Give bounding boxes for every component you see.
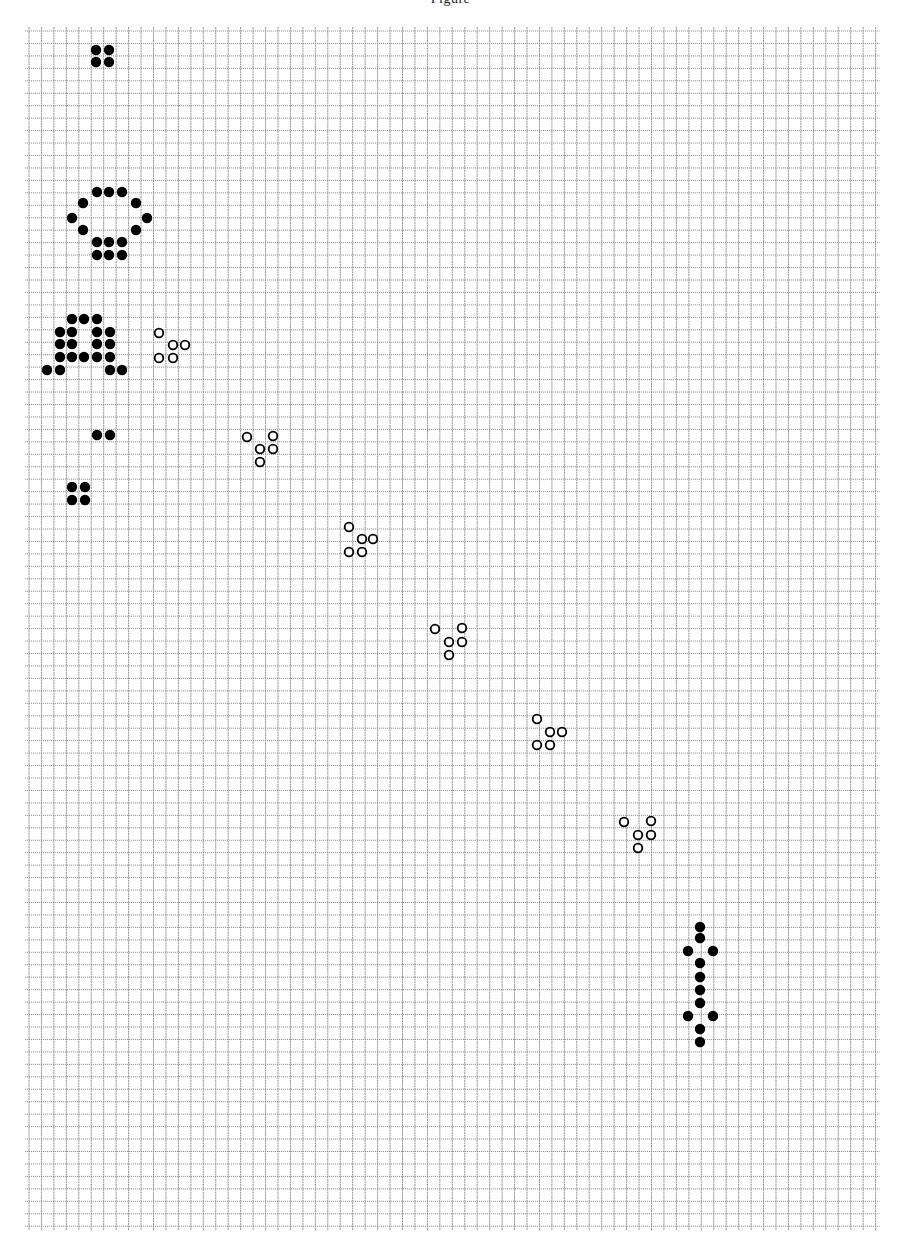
life-grid-diagram [0,0,901,1257]
live-cell-dot [42,365,52,375]
live-cell-dot [67,495,77,505]
live-cell-dot [708,946,718,956]
live-cell-dot [67,327,77,337]
live-cell-dot [92,327,102,337]
live-cell-dot [131,225,141,235]
glider-cell-ring [647,831,656,840]
live-cell-dot [79,352,89,362]
glider-cell-ring [533,715,542,724]
glider-cell-ring [358,548,367,557]
pattern-glider-3 [345,523,378,557]
glider-cell-ring [620,818,629,827]
live-cell-dot [695,998,705,1008]
grid-lines [25,27,880,1230]
live-cell-dot [91,45,101,55]
live-cell-dot [104,45,114,55]
live-cell-dot [91,57,101,67]
live-cell-dot [142,213,152,223]
glider-cell-ring [558,728,567,737]
live-cell-dot [683,1011,693,1021]
live-cell-dot [104,187,114,197]
live-cell-dot [695,972,705,982]
live-cell-dot [78,225,88,235]
live-cell-dot [695,933,705,943]
live-cell-dot [92,430,102,440]
live-cell-dot [105,327,115,337]
glider-cell-ring [256,458,265,467]
glider-cell-ring [181,341,190,350]
pattern-glider-2 [243,432,278,467]
live-cell-dot [92,187,102,197]
glider-cell-ring [269,432,278,441]
live-cell-dot [695,985,705,995]
live-cell-dot [695,922,705,932]
glider-cell-ring [256,445,265,454]
glider-cell-ring [546,728,555,737]
live-cell-dot [67,213,77,223]
pattern-gun-ring [67,187,152,260]
live-cell-dot [104,57,114,67]
live-cell-dot [67,482,77,492]
glider-cell-ring [369,535,378,544]
glider-cell-ring [169,354,178,363]
live-cell-dot [78,198,88,208]
live-cell-dot [55,339,65,349]
glider-cell-ring [155,329,164,338]
live-cell-dot [105,339,115,349]
live-cell-dot [80,495,90,505]
pattern-glider-1 [155,329,190,363]
glider-cell-ring [169,341,178,350]
glider-cell-ring [358,535,367,544]
live-cell-dot [695,958,705,968]
glider-cell-ring [155,354,164,363]
live-cell-dot [117,365,127,375]
live-cell-dot [67,314,77,324]
glider-cell-ring [458,638,467,647]
live-cell-dot [67,352,77,362]
live-cell-dot [92,250,102,260]
live-cell-dot [117,237,127,247]
glider-cell-ring [345,548,354,557]
live-cell-dot [55,327,65,337]
glider-cell-ring [546,741,555,750]
pattern-block-top [91,45,114,67]
live-cell-dot [92,352,102,362]
glider-cell-ring [647,817,656,826]
live-cell-dot [55,352,65,362]
pattern-glider-6 [620,817,656,853]
live-cell-dot [117,187,127,197]
live-cell-dot [92,314,102,324]
live-cell-dot [695,1024,705,1034]
live-cell-dot [105,430,115,440]
live-cell-dot [695,1037,705,1047]
glider-cell-ring [445,651,454,660]
live-cell-dot [708,1011,718,1021]
live-cell-dot [117,250,127,260]
live-cell-dot [55,365,65,375]
live-cell-dot [105,352,115,362]
glider-cell-ring [533,741,542,750]
glider-cell-ring [634,831,643,840]
live-cell-dot [92,237,102,247]
pattern-eater-column [683,922,718,1047]
live-cell-dot [105,365,115,375]
glider-cell-ring [634,844,643,853]
cells-layer [42,45,718,1047]
live-cell-dot [131,198,141,208]
glider-cell-ring [431,625,440,634]
pattern-gun-body [42,314,127,375]
pattern-glider-5 [533,715,567,750]
glider-cell-ring [345,523,354,532]
live-cell-dot [80,482,90,492]
live-cell-dot [104,237,114,247]
glider-cell-ring [458,624,467,633]
live-cell-dot [92,339,102,349]
live-cell-dot [683,946,693,956]
live-cell-dot [104,250,114,260]
glider-cell-ring [445,638,454,647]
live-cell-dot [79,314,89,324]
live-cell-dot [67,339,77,349]
glider-cell-ring [243,433,252,442]
glider-cell-ring [269,445,278,454]
